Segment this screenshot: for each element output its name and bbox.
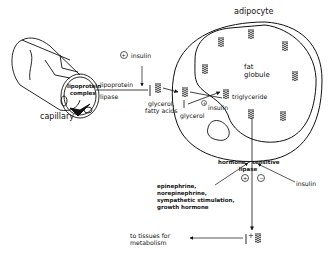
label-lipase: lipase [100, 93, 118, 100]
label-triglyceride: triglyceride [232, 93, 267, 100]
label-capillary: capillary [40, 112, 74, 121]
label-adipocyte: adipocyte [234, 7, 273, 16]
diagram-canvas: + [0, 0, 333, 259]
label-glycerol: glycerol [180, 112, 204, 119]
sign-insulin-inhibit: − [260, 175, 264, 182]
label-stimulators: epinephrine, norepinephrine, sympathetic… [157, 183, 235, 211]
nucleus [207, 121, 229, 141]
adipocyte-membrane [172, 22, 322, 161]
label-lipoprotein-complex: lipoprotein complex [67, 83, 101, 97]
label-lipoprotein: lipoprotein [100, 81, 133, 88]
label-hormone-sensitive-lipase: hormone - sensitive lipase [218, 159, 278, 173]
sign-insulin-top: + [122, 52, 126, 59]
fat-globule [195, 25, 316, 142]
sign-stimulators: + [243, 175, 247, 182]
label-insulin-right: insulin [296, 180, 316, 187]
sign-output-plus: + [248, 233, 254, 240]
label-insulin-top: insulin [131, 52, 151, 59]
svg-text:+: + [203, 101, 207, 106]
label-glycerol-fatty-acids: glycerol, fatty acids [145, 100, 178, 114]
label-insulin-inner: insulin [208, 104, 228, 111]
label-fat-globule: fat globule [244, 63, 270, 79]
label-to-tissues: to tissues for metabolism [130, 232, 170, 246]
capillary-shape [12, 38, 99, 118]
